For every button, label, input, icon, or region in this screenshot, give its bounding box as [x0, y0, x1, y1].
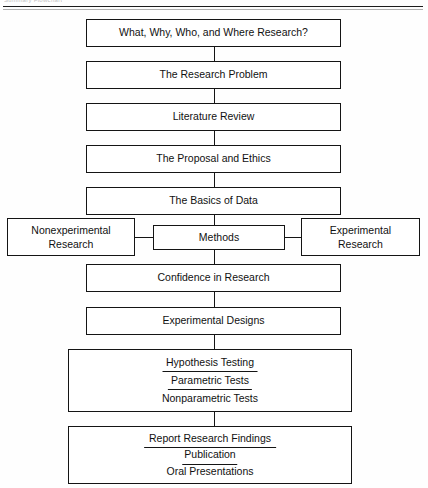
node-label-line-2: Research: [338, 237, 383, 251]
node-label: What, Why, Who, and Where Research?: [119, 26, 308, 39]
node-label-line-1: Report Research Findings: [149, 430, 271, 446]
node-label-line-2: Publication: [184, 447, 235, 463]
connector-n11-n12: [214, 412, 215, 426]
connector-methods-n9: [214, 250, 215, 264]
node-methods[interactable]: Methods: [153, 225, 285, 250]
node-label-line-2: Research: [49, 237, 94, 251]
node-report-research-findings[interactable]: Report Research Findings Publication Ora…: [68, 426, 352, 484]
node-label: The Research Problem: [160, 68, 268, 81]
node-label: Literature Review: [173, 110, 255, 123]
node-experimental-designs[interactable]: Experimental Designs: [86, 307, 341, 335]
node-label: Confidence in Research: [157, 271, 269, 284]
node-label-line-1: Experimental: [330, 223, 391, 237]
node-nonexperimental-research[interactable]: Nonexperimental Research: [7, 218, 135, 256]
connector-n9-n10: [214, 292, 215, 307]
node-label-line-3: Nonparametric Tests: [162, 390, 258, 406]
node-label: The Basics of Data: [169, 194, 258, 207]
node-label: The Proposal and Ethics: [156, 152, 270, 165]
node-label: Methods: [199, 231, 239, 244]
connector-n10-n11: [214, 335, 215, 349]
connector-methods-experimental: [285, 237, 301, 238]
connector-n5-methods: [214, 215, 215, 225]
connector-n2-n3: [214, 89, 215, 103]
node-what-why-who-where-research[interactable]: What, Why, Who, and Where Research?: [86, 19, 341, 47]
header-rule: [3, 6, 423, 7]
node-label-line-2: Parametric Tests: [171, 372, 249, 388]
flowchart-page: Summary Flowchart What, Why, Who, and Wh…: [0, 0, 428, 488]
connector-n3-n4: [214, 131, 215, 145]
node-confidence-in-research[interactable]: Confidence in Research: [86, 264, 341, 292]
node-label-line-1: Nonexperimental: [31, 223, 110, 237]
node-label: Experimental Designs: [162, 314, 264, 327]
node-hypothesis-testing[interactable]: Hypothesis Testing Parametric Tests Nonp…: [68, 349, 352, 412]
node-label-line-1: Hypothesis Testing: [166, 355, 254, 371]
node-the-research-problem[interactable]: The Research Problem: [86, 61, 341, 89]
header-rule-secondary: [3, 9, 423, 10]
node-literature-review[interactable]: Literature Review: [86, 103, 341, 131]
connector-nonexperimental-methods: [135, 237, 153, 238]
node-label-line-3: Oral Presentations: [167, 463, 254, 479]
running-head: Summary Flowchart: [4, 0, 62, 3]
connector-n1-n2: [214, 47, 215, 61]
connector-n4-n5: [214, 173, 215, 187]
node-experimental-research[interactable]: Experimental Research: [301, 218, 420, 256]
node-the-basics-of-data[interactable]: The Basics of Data: [86, 187, 341, 215]
node-the-proposal-and-ethics[interactable]: The Proposal and Ethics: [86, 145, 341, 173]
